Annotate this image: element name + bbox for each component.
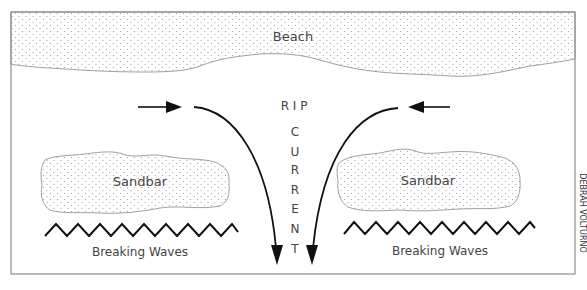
rip-current-letter: R — [291, 183, 299, 197]
breaking-waves-right — [344, 222, 535, 234]
rip-current-diagram: Beach Sandbar Sandbar Breaking Waves Bre… — [0, 0, 587, 290]
rip-current-letter: T — [290, 242, 299, 256]
rip-current-label: R I P C U R R E N T — [281, 99, 308, 256]
breaking-waves-right-label: Breaking Waves — [392, 244, 488, 258]
incoming-current-left-arrow-icon — [138, 101, 182, 113]
rip-current-letter: R — [291, 163, 299, 177]
rip-current-letter: U — [291, 145, 300, 159]
breaking-waves-left — [45, 224, 238, 236]
incoming-current-right-arrow-icon — [408, 101, 450, 113]
image-credit: DEBRAH VOLTURNO — [578, 173, 587, 253]
rip-current-letter: E — [291, 202, 299, 216]
rip-current-letter: R I P — [281, 99, 308, 113]
sandbar-left-label: Sandbar — [113, 174, 168, 189]
beach-label: Beach — [273, 29, 313, 44]
sandbar-right-label: Sandbar — [401, 173, 456, 188]
rip-current-letter: N — [291, 222, 300, 236]
rip-current-letter: C — [291, 125, 299, 139]
beach-area — [11, 12, 575, 76]
breaking-waves-left-label: Breaking Waves — [92, 245, 188, 259]
